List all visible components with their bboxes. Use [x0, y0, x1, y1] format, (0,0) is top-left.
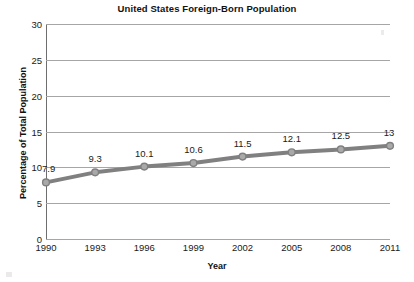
data-point-marker — [288, 149, 295, 156]
data-point-marker — [337, 146, 344, 153]
data-point-label: 13 — [384, 127, 395, 138]
x-axis-title: Year — [44, 261, 390, 271]
x-tick-label: 1990 — [35, 242, 56, 253]
y-tick-label: 25 — [31, 54, 42, 65]
y-tick-label: 20 — [31, 90, 42, 101]
chart-container: United States Foreign-Born Population Pe… — [0, 0, 414, 282]
y-tick-label: 30 — [31, 19, 42, 30]
data-point-label: 11.5 — [234, 138, 252, 149]
data-point-marker — [239, 153, 246, 160]
x-tick-label: 1999 — [183, 242, 204, 253]
gridline — [46, 239, 390, 240]
x-tick-label: 2008 — [330, 242, 351, 253]
data-point-marker — [190, 160, 197, 167]
scan-artifact-left — [6, 272, 12, 277]
y-tick-label: 5 — [37, 198, 42, 209]
data-point-marker — [43, 179, 50, 186]
y-tick-label: 10 — [31, 162, 42, 173]
data-point-label: 12.5 — [332, 130, 351, 141]
x-tick-label: 1996 — [134, 242, 155, 253]
data-point-label: 9.3 — [89, 153, 102, 164]
data-point-label: 12.1 — [282, 133, 301, 144]
x-tick-label: 2002 — [232, 242, 253, 253]
chart-title: United States Foreign-Born Population — [0, 3, 414, 14]
data-point-label: 10.6 — [184, 144, 203, 155]
x-tick-label: 2005 — [281, 242, 302, 253]
data-point-marker — [387, 142, 394, 149]
scan-artifact-right — [381, 30, 384, 35]
data-point-label: 7.9 — [42, 163, 55, 174]
plot-area: 051015202530 199019931996199920022005200… — [46, 24, 390, 239]
data-point-marker — [141, 163, 148, 170]
y-tick-label: 15 — [31, 126, 42, 137]
y-axis-title: Percentage of Total Population — [18, 18, 28, 248]
x-tick-label: 1993 — [85, 242, 106, 253]
data-point-marker — [92, 169, 99, 176]
data-point-label: 10.1 — [135, 148, 154, 159]
x-tick-label: 2011 — [380, 242, 400, 253]
